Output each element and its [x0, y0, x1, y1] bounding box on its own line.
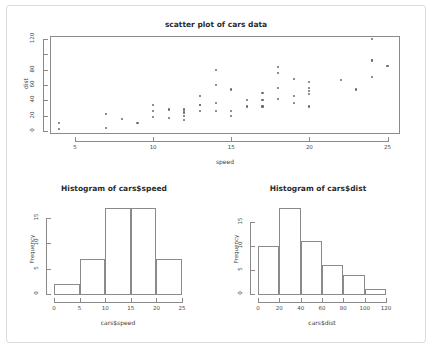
histogram-speed-y-tick-label: 15 [33, 209, 39, 225]
scatter-x-tick-label: 25 [380, 144, 396, 150]
scatter-data-point [215, 110, 217, 112]
histogram-dist-x-tick [386, 298, 387, 303]
histogram-speed-x-tick [54, 298, 55, 303]
scatter-data-point [293, 95, 295, 97]
histogram-speed-panel: Histogram of cars$speed 051015Frequency0… [14, 182, 214, 342]
histogram-speed-baseline [54, 294, 182, 295]
histogram-speed-bar [105, 208, 131, 294]
histogram-speed-x-axis-label: cars$speed [54, 319, 182, 326]
scatter-plot-area: 020406080120dist510152025speed [14, 14, 418, 174]
scatter-y-tick-label: 80 [29, 61, 35, 77]
scatter-x-tick [388, 137, 389, 142]
scatter-y-tick [43, 100, 48, 101]
histogram-speed-y-tick [46, 269, 51, 270]
scatter-x-tick [309, 137, 310, 142]
histogram-speed-x-tick [182, 298, 183, 303]
scatter-x-axis-label: speed [50, 158, 400, 165]
histogram-speed-plot-area: 051015Frequency0510152025cars$speed [14, 182, 214, 342]
histogram-dist-x-tick-label: 60 [313, 305, 331, 311]
scatter-y-tick [43, 70, 48, 71]
scatter-x-tick [75, 137, 76, 142]
histogram-dist-bar [279, 208, 300, 294]
histogram-dist-x-tick [279, 298, 280, 303]
histogram-dist-y-axis-line [250, 222, 251, 294]
histogram-speed-bar [80, 259, 106, 294]
scatter-data-point [199, 95, 201, 97]
histogram-dist-y-tick [250, 294, 255, 295]
histogram-speed-y-tick [46, 218, 51, 219]
scatter-y-tick-label: 40 [29, 91, 35, 107]
scatter-plot-box [50, 36, 400, 134]
histogram-speed-x-tick [80, 298, 81, 303]
scatter-y-tick-label: 0 [29, 122, 35, 138]
scatter-data-point [215, 69, 217, 71]
scatter-x-tick-label: 10 [145, 144, 161, 150]
histogram-dist-x-tick-label: 0 [249, 305, 267, 311]
figure-page: scatter plot of cars data 020406080120di… [0, 0, 432, 348]
histogram-speed-x-tick [131, 298, 132, 303]
scatter-y-tick [43, 116, 48, 117]
histogram-speed-x-tick-label: 20 [147, 305, 165, 311]
scatter-data-point [121, 118, 123, 120]
scatter-plot-panel: scatter plot of cars data 020406080120di… [14, 14, 418, 174]
histogram-dist-y-tick-label: 0 [237, 285, 243, 301]
histogram-speed-y-axis-label: Frequency [29, 227, 35, 271]
scatter-y-tick [43, 39, 48, 40]
histogram-dist-x-tick [343, 298, 344, 303]
histogram-speed-x-tick-label: 15 [122, 305, 140, 311]
histogram-speed-y-axis-line [46, 218, 47, 294]
scatter-data-point [168, 108, 170, 110]
histogram-speed-x-tick-label: 25 [173, 305, 191, 311]
histogram-dist-x-tick-label: 20 [270, 305, 288, 311]
scatter-data-point [168, 117, 170, 119]
scatter-data-point [246, 105, 248, 107]
scatter-y-tick [43, 85, 48, 86]
histogram-dist-bar [322, 265, 343, 294]
histogram-speed-x-tick-label: 10 [96, 305, 114, 311]
histogram-dist-bar [343, 275, 364, 294]
histogram-dist-x-tick [258, 298, 259, 303]
scatter-y-tick-label: 20 [29, 107, 35, 123]
scatter-y-tick [43, 54, 48, 55]
scatter-x-tick-label: 15 [223, 144, 239, 150]
scatter-data-point [277, 66, 279, 68]
histogram-speed-x-axis-line [54, 302, 182, 303]
scatter-y-tick [43, 131, 48, 132]
scatter-y-tick-label: 120 [29, 30, 35, 46]
scatter-x-tick-label: 5 [67, 144, 83, 150]
scatter-data-point [215, 84, 217, 86]
scatter-data-point [293, 78, 295, 80]
histogram-dist-x-tick-label: 80 [334, 305, 352, 311]
histogram-dist-x-tick [365, 298, 366, 303]
histogram-speed-x-tick-label: 5 [71, 305, 89, 311]
histogram-dist-bar [301, 241, 322, 294]
histogram-dist-x-tick-label: 120 [377, 305, 395, 311]
histogram-speed-y-tick [46, 294, 51, 295]
scatter-data-point [371, 59, 373, 61]
histogram-dist-x-axis-label: cars$dist [258, 319, 386, 326]
histogram-dist-y-axis-label: Frequency [233, 227, 239, 271]
histogram-dist-baseline [258, 294, 386, 295]
histogram-speed-x-tick [156, 298, 157, 303]
histogram-dist-y-tick [250, 270, 255, 271]
histogram-dist-bar [258, 246, 279, 294]
histogram-dist-x-tick-label: 100 [356, 305, 374, 311]
histogram-dist-x-tick [322, 298, 323, 303]
scatter-x-tick-label: 20 [301, 144, 317, 150]
scatter-data-point [261, 105, 263, 107]
histogram-speed-y-tick [46, 243, 51, 244]
scatter-y-tick-label: 60 [29, 76, 35, 92]
histogram-dist-x-tick [301, 298, 302, 303]
histogram-dist-panel: Histogram of cars$dist 051015Frequency02… [218, 182, 418, 342]
histogram-dist-plot-area: 051015Frequency020406080100120cars$dist [218, 182, 418, 342]
scatter-x-tick [153, 137, 154, 142]
scatter-data-point [261, 92, 263, 94]
scatter-y-axis-label: dist [22, 69, 29, 99]
histogram-speed-x-tick [105, 298, 106, 303]
histogram-speed-bar [131, 208, 157, 294]
histogram-dist-y-tick [250, 222, 255, 223]
histogram-speed-bar [156, 259, 182, 294]
scatter-x-tick [231, 137, 232, 142]
histogram-speed-y-tick-label: 0 [33, 285, 39, 301]
scatter-data-point [199, 104, 201, 106]
